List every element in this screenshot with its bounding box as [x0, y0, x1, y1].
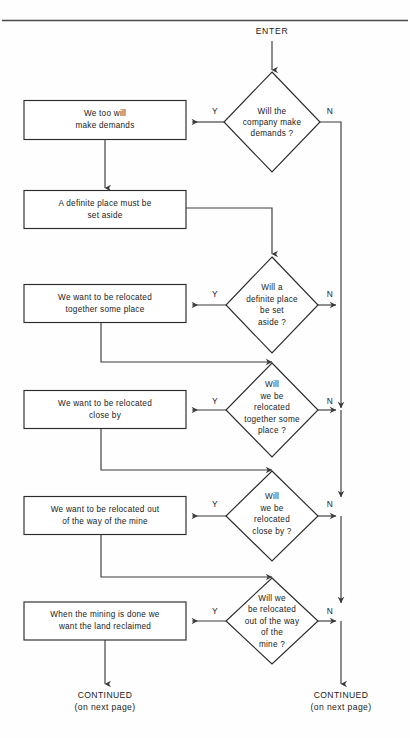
decision-d3-line-1: we be [259, 392, 283, 401]
decision-d4-line-2: relocated [254, 515, 290, 524]
process-b1-line-0: We too will [84, 109, 126, 118]
process-b5[interactable]: We want to be relocated out of the way o… [24, 497, 186, 535]
process-b3-line-1: together some place [66, 305, 145, 314]
decision-d1-line-1: company make [243, 118, 302, 127]
process-b1[interactable]: We too will make demands [24, 101, 186, 140]
process-b3[interactable]: We want to be relocated together some pl… [24, 285, 186, 323]
flowchart-canvas: ENTER Will the company make demands ? Y … [0, 0, 410, 738]
connector-b2-to-d2 [186, 208, 272, 254]
decision-d2-line-2: be set [260, 306, 284, 315]
decision-d2-line-0: Will a [261, 283, 283, 292]
terminal-right-line-1: (on next page) [310, 702, 371, 712]
decision-d3-line-0: Will [265, 380, 279, 389]
process-b1-shape [24, 101, 186, 140]
terminal-left-line-0: CONTINUED [78, 690, 133, 700]
terminal-left: CONTINUED (on next page) [74, 690, 135, 712]
decision-d2-no-label: N [327, 289, 333, 299]
process-b6[interactable]: When the mining is done we want the land… [24, 602, 186, 640]
decision-d1-line-0: Will the [258, 107, 287, 116]
decision-d3-line-3: together some [244, 415, 300, 424]
process-b6-line-1: want the land reclaimed [58, 622, 151, 631]
decision-d5-line-2: out of the way [245, 617, 300, 626]
process-b4[interactable]: We want to be relocated close by [24, 391, 186, 429]
process-b2-line-1: set aside [87, 211, 122, 220]
process-b6-line-0: When the mining is done we [50, 610, 160, 619]
terminal-right: CONTINUED (on next page) [310, 690, 371, 712]
decision-d5[interactable]: Will we be relocated out of the way of t… [226, 578, 318, 664]
process-b3-line-0: We want to be relocated [58, 293, 152, 302]
decision-d2-line-1: definite place [246, 295, 298, 304]
decision-d4-line-1: we be [259, 504, 283, 513]
decision-d3-yes-label: Y [212, 396, 218, 406]
decision-d2-yes-label: Y [212, 289, 218, 299]
decision-d5-yes-label: Y [212, 606, 218, 616]
decision-d2-line-3: aside ? [258, 318, 286, 327]
decision-d1[interactable]: Will the company make demands ? [224, 72, 320, 172]
connector-b3-to-d3 [101, 323, 272, 363]
terminal-right-line-0: CONTINUED [314, 690, 369, 700]
decision-d5-line-3: of the [261, 628, 283, 637]
decision-d3[interactable]: Will we be relocated together some place… [226, 363, 318, 457]
decision-d3-line-2: relocated [254, 403, 290, 412]
decision-d5-line-4: mine ? [259, 640, 285, 649]
flowchart-svg: ENTER Will the company make demands ? Y … [0, 0, 410, 738]
process-b1-line-1: make demands [76, 121, 135, 130]
decision-d3-line-4: place ? [258, 426, 286, 435]
process-b2[interactable]: A definite place must be set aside [24, 191, 186, 229]
process-b4-line-0: We want to be relocated [58, 399, 152, 408]
process-b5-shape [24, 497, 186, 535]
connector-b5-to-d5 [101, 535, 272, 578]
decision-d1-yes-label: Y [212, 106, 218, 116]
process-b6-shape [24, 602, 186, 640]
process-b3-shape [24, 285, 186, 323]
decision-d4-no-label: N [327, 499, 333, 509]
process-b5-line-0: We want to be relocated out [51, 505, 160, 514]
enter-label: ENTER [256, 26, 289, 36]
decision-d4-line-0: Will [265, 492, 279, 501]
decision-d1-line-2: demands ? [251, 129, 294, 138]
decision-d5-line-0: Will we [258, 594, 286, 603]
decision-d4-yes-label: Y [212, 499, 218, 509]
decision-d4-line-3: close by ? [252, 527, 292, 536]
decision-d1-no-label: N [327, 106, 333, 116]
connector-b4-to-d4 [101, 429, 272, 471]
process-b5-line-1: of the way of the mine [62, 517, 148, 526]
decision-d5-line-1: be relocated [248, 605, 296, 614]
process-b2-line-0: A definite place must be [59, 199, 152, 208]
process-b4-line-1: close by [89, 411, 122, 420]
decision-d2-shape [226, 257, 318, 353]
decision-d2[interactable]: Will a definite place be set aside ? [226, 257, 318, 353]
connector-d1-no-to-spine [320, 122, 341, 408]
decision-d4[interactable]: Will we be relocated close by ? [226, 471, 318, 561]
decision-d5-no-label: N [327, 606, 333, 616]
terminal-left-line-1: (on next page) [74, 702, 135, 712]
decision-d3-no-label: N [327, 396, 333, 406]
process-b4-shape [24, 391, 186, 429]
process-b2-shape [24, 191, 186, 229]
